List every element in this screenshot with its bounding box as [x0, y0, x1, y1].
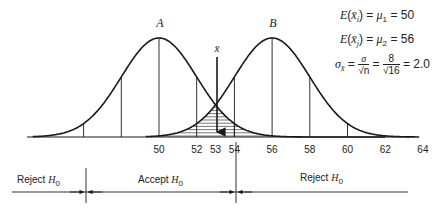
- region-word: Reject: [17, 174, 45, 185]
- denominator: √n: [358, 65, 369, 76]
- mu-subscript: 2: [383, 39, 387, 48]
- subscript: i: [357, 15, 359, 24]
- denominator: √16: [383, 65, 400, 76]
- tick-label: 54: [229, 144, 241, 155]
- formula-result: 2.0: [413, 57, 430, 71]
- tick-label: 52: [191, 144, 203, 155]
- tick-label: 50: [153, 144, 165, 155]
- sample-mean-label: x̄: [214, 42, 220, 54]
- region-label-accept: Accept H0: [138, 174, 183, 188]
- tick-label: 53: [210, 144, 222, 155]
- numerator: σ: [358, 53, 369, 65]
- region-word: Reject: [300, 172, 328, 183]
- hypothesis-subscript: 0: [55, 179, 59, 188]
- curve-a-label: A: [155, 16, 164, 30]
- curve-b-label: B: [269, 16, 277, 30]
- formula-expected-a: E(x̄i) = μ1 = 50: [340, 8, 414, 24]
- hypothesis-symbol: H: [171, 174, 178, 185]
- tick-label: 60: [342, 144, 354, 155]
- region-label-reject-left: Reject H0: [17, 174, 60, 188]
- tick-label: 64: [417, 144, 429, 155]
- hypothesis-subscript: 0: [338, 177, 342, 186]
- fraction-8-over-root-16: 8√16: [383, 53, 400, 76]
- formula-value: 56: [401, 32, 414, 46]
- distribution-curve-a: [33, 38, 386, 137]
- expectation-symbol: E: [340, 32, 347, 46]
- formula-standard-error: σx̄ = σ√n = 8√16 = 2.0: [335, 53, 430, 76]
- subscript: j: [357, 39, 359, 48]
- fraction-sigma-over-root-n: σ√n: [358, 53, 369, 76]
- region-word: Accept: [138, 174, 169, 185]
- tick-label: 62: [380, 144, 392, 155]
- hypothesis-subscript: 0: [179, 179, 183, 188]
- formula-expected-b: E(x̄j) = μ2 = 56: [340, 32, 414, 48]
- tick-label: 58: [304, 144, 316, 155]
- axis-tick-labels: 505253545658606264: [153, 144, 428, 155]
- numerator: 8: [383, 53, 400, 65]
- formula-value: 50: [401, 8, 414, 22]
- expectation-symbol: E: [340, 8, 347, 22]
- tick-label: 56: [267, 144, 279, 155]
- mu-subscript: 1: [383, 15, 387, 24]
- region-label-reject-right: Reject H0: [300, 172, 343, 186]
- sigma-subscript: x̄: [341, 64, 345, 73]
